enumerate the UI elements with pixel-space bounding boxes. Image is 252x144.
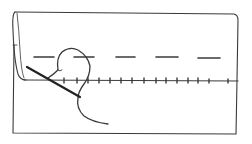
thread [48, 48, 108, 124]
illustration-svg [0, 0, 252, 144]
basting-dashes [34, 57, 220, 58]
fabric-outline [13, 12, 238, 134]
hem-fold-line [24, 80, 238, 81]
hem-stitch-illustration [0, 0, 252, 144]
rolled-edge [13, 12, 26, 80]
needle-icon [27, 67, 80, 97]
